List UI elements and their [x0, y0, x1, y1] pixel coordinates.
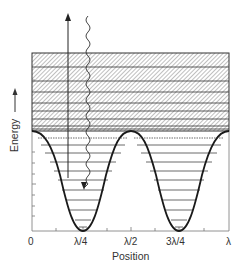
y-axis-label: Energy	[8, 119, 20, 152]
x-tick-0: 0	[28, 236, 34, 247]
x-tick-lambda: λ	[226, 236, 231, 247]
x-tick-three-quarter: 3λ/4	[166, 236, 185, 247]
potential-curve	[32, 131, 229, 231]
x-tick-half: λ/2	[124, 236, 137, 247]
x-axis-label: Position	[112, 250, 149, 262]
continuum-bands	[32, 53, 229, 131]
energy-diagram	[0, 0, 241, 267]
energy-axis-arrow	[13, 88, 18, 112]
x-tick-quarter: λ/4	[74, 236, 87, 247]
bound-levels	[38, 138, 224, 227]
